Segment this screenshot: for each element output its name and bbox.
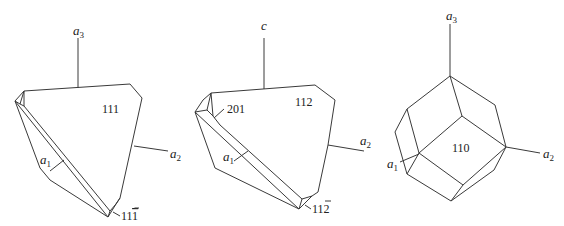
axis-label-a1: a1 [223,149,234,166]
crystal-diagrams: a3 a2 a1 111 111 c a2 a1 112 201 112 [0,0,564,226]
face-label-112: 112 [295,95,313,109]
axis-label-c: c [261,18,267,33]
leader-line [214,109,224,118]
edge-diagonal [15,101,108,217]
axis-a1 [50,160,64,171]
axis-label-a3: a3 [446,8,458,25]
edge [407,109,419,153]
axis-label-a3: a3 [73,23,85,40]
axis-label-a2: a2 [170,146,181,163]
axis-label-a2: a2 [543,146,554,163]
crystal-outline [15,84,142,217]
leader-line [305,205,311,209]
face-label-201: 201 [227,102,245,116]
crystal-figure-3: a3 a2 a1 110 [387,8,554,201]
axis-a2 [506,147,540,153]
crystal-outline [195,85,335,209]
crystal-figure-2: c a2 a1 112 201 112 [195,18,371,216]
bottom-facet [110,198,120,211]
corner-facet [211,93,213,116]
face-label-11-2bar: 112 [312,202,330,216]
axis-label-a1: a1 [387,156,398,173]
edge-diagonal [195,112,299,209]
leader-line [113,212,120,216]
face-label-110: 110 [452,141,470,155]
face-label-11-1bar: 111 [121,209,138,223]
corner-facet [20,104,24,106]
face-label-111: 111 [102,102,119,116]
axis-a2 [134,146,168,151]
crystal-figure-1: a3 a2 a1 111 111 [15,23,181,223]
crystal-outline [395,76,506,201]
edge [419,153,463,185]
axis-label-a2: a2 [360,133,371,150]
edge [451,185,463,201]
axis-a2 [328,145,364,151]
axis-label-a1: a1 [40,152,51,169]
